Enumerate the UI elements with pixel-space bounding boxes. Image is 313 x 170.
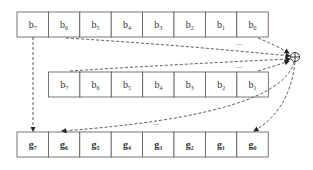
bit-cell: b2	[206, 72, 237, 97]
ellipsis-bottom: ...	[153, 118, 159, 127]
input-bits-row: b7b6b5b4b3b2b1b0	[17, 12, 268, 37]
bit-cell: b5	[111, 72, 142, 97]
binary-to-gray-diagram: b7b6b5b4b3b2b1b0 b7b6b5b4b3b2b1 g7g6g5g4…	[0, 0, 313, 170]
bit-cell: b3	[143, 12, 174, 37]
bit-cell: b5	[80, 12, 111, 37]
shifted-bits-row: b7b6b5b4b3b2b1	[49, 72, 269, 97]
bit-cell: b6	[80, 72, 111, 97]
gray-bits-row: g7g6g5g4g3g2g1g0	[17, 132, 268, 157]
bit-cell: b4	[111, 12, 142, 37]
bit-cell: b1	[237, 72, 268, 97]
mid-to-xor-arrow-1	[70, 59, 290, 71]
bit-cell: g1	[205, 132, 236, 157]
bit-cell: b7	[49, 72, 80, 97]
xor-operator-icon	[291, 53, 300, 62]
bit-cell: g6	[48, 132, 79, 157]
bit-cell: b1	[205, 12, 236, 37]
bit-cell: b4	[143, 72, 174, 97]
ellipsis-middle: ...	[236, 61, 242, 70]
bit-cell: b6	[48, 12, 79, 37]
bit-cell: b7	[17, 12, 48, 37]
bit-cell: g5	[80, 132, 111, 157]
bit-cell: g7	[17, 132, 48, 157]
ellipsis-top: ...	[236, 38, 242, 47]
bit-cell: g3	[143, 132, 174, 157]
mid-to-xor-arrow-2	[258, 61, 289, 71]
bit-cell: b0	[237, 12, 268, 37]
bit-cell: g2	[174, 132, 205, 157]
top-to-xor-arrow-2	[258, 38, 289, 53]
top-to-xor-arrow-1	[66, 38, 290, 56]
bit-cell: g0	[237, 132, 268, 157]
bit-cell: b2	[174, 12, 205, 37]
bit-cell: g4	[111, 132, 142, 157]
bit-cell: b3	[174, 72, 205, 97]
